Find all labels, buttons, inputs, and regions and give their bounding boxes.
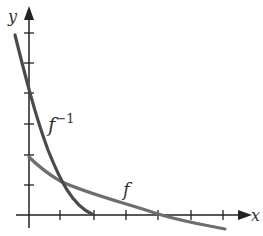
- f-inverse-label: f−1: [46, 111, 75, 137]
- y-axis-arrow-icon: [24, 6, 34, 20]
- function-inverse-graph: y x f−1 f: [0, 0, 263, 236]
- x-axis-arrow-icon: [238, 210, 252, 220]
- y-axis-label: y: [7, 7, 18, 26]
- x-axis-label: x: [251, 206, 260, 225]
- f-label: f: [121, 179, 133, 200]
